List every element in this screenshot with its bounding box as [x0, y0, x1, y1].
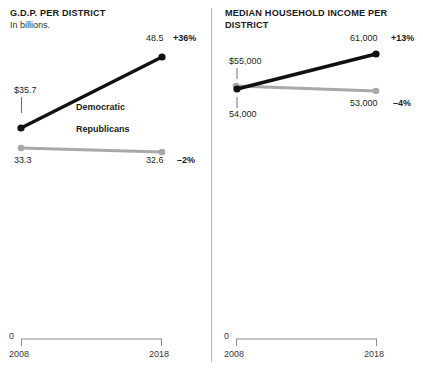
democratic-start-point [17, 124, 24, 131]
republican-end-value-label: 53,000 [350, 98, 378, 108]
democratic-start-value-label: 54,000 [229, 109, 257, 119]
chart-panel-gdp: G.D.P. PER DISTRICT In billions. $35.7 4… [0, 0, 211, 374]
x-tick-label-2008: 2008 [9, 349, 29, 359]
series-label-republicans: Republicans [76, 124, 130, 134]
democratic-end-value-label: 48.5 [146, 33, 164, 43]
republican-line [236, 86, 376, 91]
chart-subtitle: In billions. [10, 20, 50, 31]
republican-start-point [18, 145, 25, 152]
democratic-change-label: +13% [391, 33, 414, 43]
democratic-end-point [372, 50, 379, 57]
republican-change-label: –4% [393, 98, 411, 108]
republican-start-point [233, 83, 240, 90]
republican-end-value-label: 32.6 [146, 155, 164, 165]
republican-start-value-label: 33.3 [14, 155, 32, 165]
gdp-slope-plot [0, 0, 211, 374]
chart-panel-income: MEDIAN HOUSEHOLD INCOME PER DISTRICT $55… [211, 0, 423, 374]
republican-end-point [373, 88, 380, 95]
page-title: G.D.P. PER DISTRICT [10, 7, 106, 19]
x-tick-label-2008: 2008 [224, 349, 244, 359]
x-tick-label-2018: 2018 [149, 349, 169, 359]
democratic-start-point [233, 85, 240, 92]
democratic-end-point [158, 53, 165, 60]
democratic-end-value-label: 61,000 [350, 33, 378, 43]
republican-line [21, 148, 162, 152]
page-title: MEDIAN HOUSEHOLD INCOME PER DISTRICT [225, 7, 387, 31]
series-label-democratic: Democratic [76, 102, 125, 112]
democratic-start-value-label: $35.7 [14, 85, 37, 95]
y-axis-zero-label: 0 [9, 331, 14, 341]
republican-start-value-label: $55,000 [229, 56, 262, 66]
republican-change-label: –2% [177, 155, 195, 165]
democratic-line [21, 57, 162, 128]
democratic-change-label: +36% [173, 33, 196, 43]
y-axis-zero-label: 0 [224, 331, 229, 341]
x-tick-label-2018: 2018 [364, 349, 384, 359]
